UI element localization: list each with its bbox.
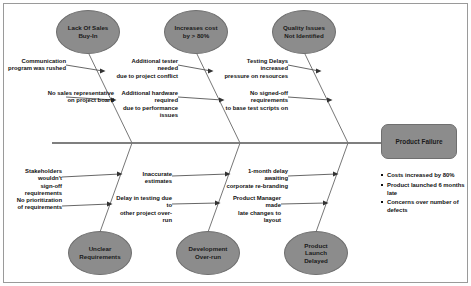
cause-communication-program-rushed[interactable]: Communication program was rushed (6, 58, 66, 73)
category-label: Increases cost by > 80% (175, 24, 218, 39)
cause-line-2: sign-off requirements (4, 183, 62, 198)
cause-line-2: pressure on resources (224, 73, 288, 80)
cause-connector-7 (62, 174, 120, 177)
cause-line-2: late changes to layout (221, 210, 281, 225)
category-product-launch-delayed[interactable]: Product Launch Delayed (284, 231, 348, 275)
bullet-icon (381, 184, 383, 186)
bullet-icon (381, 174, 383, 176)
category-label: Unclear Requirements (79, 245, 120, 260)
cause-connector-1 (66, 65, 103, 71)
cause-line-2: other project over-run (112, 210, 172, 225)
cause-arrow-6 (327, 98, 333, 103)
outcome-text: Product launched 6 months late (387, 182, 465, 196)
effect-box-product-failure[interactable]: Product Failure (381, 124, 457, 159)
category-unclear-requirements[interactable]: Unclear Requirements (68, 231, 132, 275)
bullet-icon (381, 201, 383, 203)
cause-line-1: Additional tester needed (114, 58, 178, 73)
category-label: Product Launch Delayed (304, 242, 328, 265)
effect-label: Product Failure (396, 138, 443, 145)
cause-connector-9 (172, 174, 228, 176)
cause-line-1: No sales representative (14, 90, 114, 97)
bone-top-3 (304, 52, 348, 143)
cause-line-1: No signed-off requirements (222, 90, 288, 105)
outcome-item: Concerns over number of defects (380, 198, 466, 214)
cause-line-2: to base test scripts on (222, 105, 288, 112)
cause-line-1: 1-month delay awaiting (226, 168, 288, 183)
category-label: Lack Of Sales Buy-In (68, 24, 109, 39)
cause-connector-8 (62, 204, 110, 206)
outcome-text: Concerns over number of defects (387, 199, 459, 213)
cause-line-1: No prioritization (8, 197, 62, 204)
cause-line-2: on project board (14, 97, 114, 104)
cause-arrow-3 (208, 69, 214, 74)
cause-stakeholders-wouldnt-sign-off[interactable]: Stakeholders wouldn't sign-off requireme… (4, 168, 62, 198)
outcome-text: Costs increased by 80% (387, 172, 454, 178)
cause-one-month-delay-rebranding[interactable]: 1-month delay awaiting corporate re-bran… (226, 168, 288, 190)
category-development-over-run[interactable]: Development Over-run (176, 231, 240, 275)
cause-line-1: Stakeholders wouldn't (4, 168, 62, 183)
cause-inaccurate-estimates[interactable]: Inaccurate estimates (114, 171, 172, 186)
cause-no-signed-off-requirements[interactable]: No signed-off requirements to base test … (222, 90, 288, 112)
cause-connector-12 (281, 203, 326, 204)
outcome-item: Product launched 6 months late (380, 181, 466, 197)
cause-line-1: Product Manager made (221, 195, 281, 210)
category-label: Development Over-run (189, 245, 228, 260)
cause-no-sales-representative[interactable]: No sales representative on project board (14, 90, 114, 105)
cause-no-prioritization-of-requirements[interactable]: No prioritization of requirements (8, 197, 62, 212)
cause-arrow-1 (100, 69, 106, 74)
cause-connector-4 (178, 97, 222, 100)
cause-line-1: Additional hardware required (118, 90, 178, 105)
cause-line-1: Inaccurate estimates (114, 171, 172, 186)
cause-line-1: Testing Delays increased (224, 58, 288, 73)
cause-connector-10 (172, 203, 218, 204)
cause-line-2: program was rushed (6, 65, 66, 72)
category-label: Quality Issues Not Identified (283, 24, 325, 39)
cause-connector-5 (288, 65, 319, 71)
category-quality-issues-not-identified[interactable]: Quality Issues Not Identified (272, 10, 336, 54)
cause-line-1: Communication (6, 58, 66, 65)
category-increases-cost[interactable]: Increases cost by > 80% (164, 10, 228, 54)
cause-line-1: Delay in testing due to (112, 195, 172, 210)
cause-line-2: of requirements (8, 204, 62, 211)
cause-connector-6 (288, 97, 330, 100)
cause-delay-in-testing[interactable]: Delay in testing due to other project ov… (112, 195, 172, 225)
cause-product-manager-late-changes[interactable]: Product Manager made late changes to lay… (221, 195, 281, 225)
cause-line-2: due to project conflict (114, 73, 178, 80)
outcome-item: Costs increased by 80% (380, 171, 466, 179)
category-lack-of-sales-buy-in[interactable]: Lack Of Sales Buy-In (56, 10, 120, 54)
cause-testing-delays-increased-pressure[interactable]: Testing Delays increased pressure on res… (224, 58, 288, 80)
cause-arrow-5 (316, 69, 322, 74)
fishbone-diagram-canvas: Lack Of Sales Buy-In Increases cost by >… (0, 0, 471, 286)
cause-line-2: corporate re-branding (226, 183, 288, 190)
bone-bottom-3 (316, 143, 348, 232)
cause-additional-tester-needed[interactable]: Additional tester needed due to project … (114, 58, 178, 80)
cause-connector-3 (178, 65, 211, 71)
outcome-list: Costs increased by 80% Product launched … (380, 171, 466, 216)
cause-connector-11 (288, 174, 336, 176)
cause-additional-hardware-required[interactable]: Additional hardware required due to perf… (118, 90, 178, 120)
cause-line-2: due to performance issues (118, 105, 178, 120)
